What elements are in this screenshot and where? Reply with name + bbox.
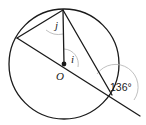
angle-i-label: i (71, 53, 74, 65)
angle-j-label: j (53, 19, 58, 31)
circle-theorem-diagram: j i O 136° (0, 0, 146, 125)
angle-136-label: 136° (110, 81, 132, 93)
center-o-label: O (56, 70, 64, 82)
diameter-extended-line (17, 38, 140, 116)
radius-top-center (63, 10, 64, 64)
center-point (62, 62, 67, 67)
